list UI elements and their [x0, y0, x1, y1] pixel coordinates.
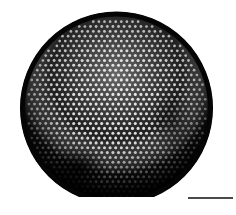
scale-bar: [188, 197, 233, 199]
diatom-specimen: [0, 0, 236, 215]
micrograph: [0, 0, 236, 215]
